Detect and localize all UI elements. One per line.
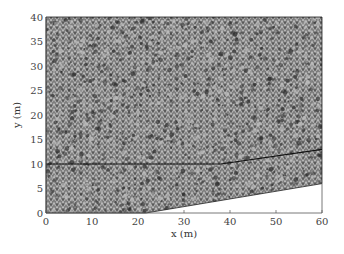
y-axis-label: y (m)	[11, 102, 22, 129]
x-tick-label: 60	[316, 216, 329, 227]
x-tick-label: 40	[224, 216, 237, 227]
y-tick-label: 20	[30, 110, 43, 121]
y-tick-label: 15	[30, 134, 43, 145]
y-ticks: 0510152025303540	[30, 12, 43, 219]
x-tick-label: 0	[43, 216, 49, 227]
y-tick-label: 5	[37, 183, 43, 194]
x-tick-label: 20	[132, 216, 145, 227]
x-tick-label: 30	[178, 216, 191, 227]
y-tick-label: 40	[30, 12, 43, 23]
mesh-chart: 0102030405060 0510152025303540 x (m) y (…	[0, 0, 344, 254]
y-tick-label: 10	[30, 159, 43, 170]
y-tick-label: 25	[30, 85, 43, 96]
mesh-region	[45, 15, 325, 215]
x-tick-label: 50	[270, 216, 283, 227]
x-tick-label: 10	[86, 216, 99, 227]
y-tick-label: 0	[37, 208, 43, 219]
y-tick-label: 35	[30, 36, 43, 47]
x-axis-label: x (m)	[171, 228, 197, 239]
plot-area: 0102030405060 0510152025303540 x (m) y (…	[11, 12, 328, 240]
y-tick-label: 30	[30, 61, 43, 72]
